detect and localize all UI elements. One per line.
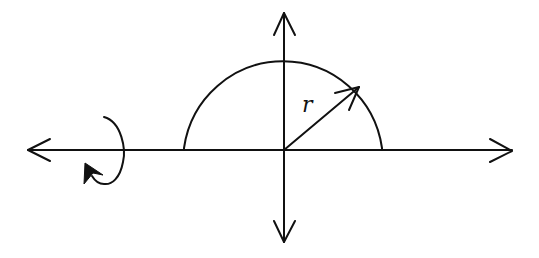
horizontal-axis <box>28 139 512 162</box>
vertical-axis <box>274 13 295 242</box>
rotation-arrowhead-icon <box>84 163 103 184</box>
semicircle-rotation-diagram: r <box>0 0 539 258</box>
radius-arrow <box>284 87 359 150</box>
radius-label: r <box>302 92 314 117</box>
